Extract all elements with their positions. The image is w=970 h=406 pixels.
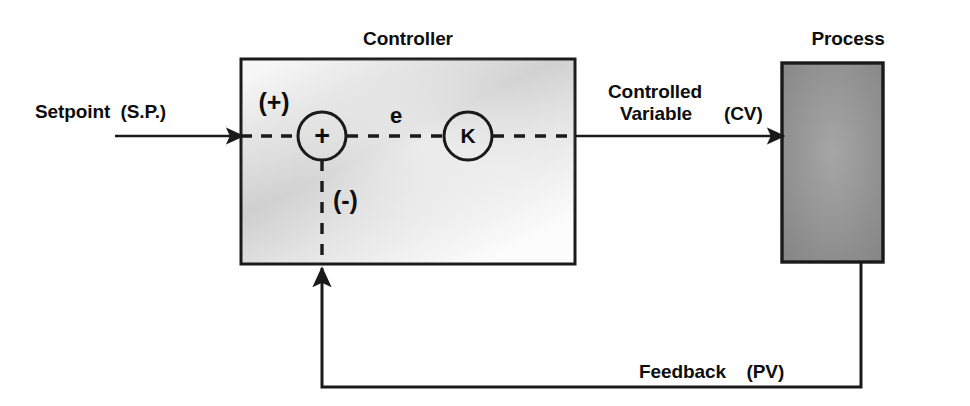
controller-block-title: Controller: [363, 29, 453, 50]
controlled-variable-label-line2: Variable: [620, 104, 692, 125]
positive-sign-label: (+): [259, 89, 290, 116]
control-loop-diagram: Controller Process Setpoint (S.P.) (+) +…: [0, 0, 970, 406]
feedback-label: Feedback (PV): [639, 362, 784, 383]
controlled-variable-label-line1: Controlled: [608, 82, 702, 103]
process-block-shape: [782, 63, 883, 262]
error-signal-label: e: [390, 104, 402, 128]
process-block-title: Process: [811, 29, 884, 50]
diagram-vector-layer: [0, 0, 970, 406]
summing-junction-glyph: +: [314, 122, 330, 151]
controlled-variable-tag: (CV): [724, 104, 763, 125]
gain-block-glyph: K: [460, 125, 475, 148]
setpoint-label: Setpoint (S.P.): [35, 102, 166, 123]
controller-block-shape: [241, 59, 575, 264]
negative-sign-label: (-): [333, 187, 358, 214]
